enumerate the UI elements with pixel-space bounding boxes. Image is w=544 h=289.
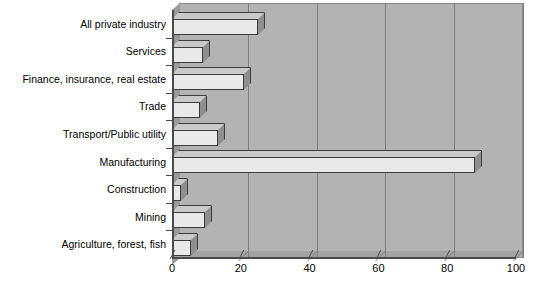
bar-front-face — [172, 157, 475, 173]
gridline-60 — [385, 3, 386, 258]
gridline-80 — [454, 3, 455, 258]
bar-front-face — [172, 19, 258, 35]
x-axis — [172, 257, 516, 259]
category-label: Mining — [135, 211, 166, 223]
bar-front-face — [172, 130, 218, 146]
x-tick-label: 60 — [358, 262, 398, 274]
category-label: All private industry — [80, 18, 166, 30]
category-label: Trade — [139, 100, 166, 112]
x-tick-label: 20 — [221, 262, 261, 274]
y-tick — [166, 230, 172, 231]
y-tick — [166, 203, 172, 204]
x-tick-label: 80 — [427, 262, 467, 274]
bar — [172, 123, 218, 139]
bar — [172, 205, 205, 221]
y-axis — [172, 10, 174, 258]
category-label: Services — [126, 45, 166, 57]
bar — [172, 95, 200, 111]
y-tick — [166, 120, 172, 121]
bar-top-face — [172, 12, 265, 19]
bar — [172, 12, 258, 28]
bar-front-face — [172, 240, 191, 256]
bar — [172, 150, 475, 166]
category-label: Construction — [107, 183, 166, 195]
y-tick — [166, 65, 172, 66]
y-tick — [166, 38, 172, 39]
bar-front-face — [172, 47, 203, 63]
category-label: Transport/Public utility — [63, 128, 166, 140]
bar-chart: All private industryServicesFinance, ins… — [0, 0, 544, 289]
x-tick-label: 100 — [496, 262, 536, 274]
bar-top-face — [172, 123, 225, 130]
bar — [172, 40, 203, 56]
category-label: Agriculture, forest, fish — [62, 238, 166, 250]
category-label: Finance, insurance, real estate — [22, 73, 166, 85]
gridline-20 — [248, 3, 249, 258]
bar-front-face — [172, 74, 244, 90]
gridline-40 — [317, 3, 318, 258]
bar-top-face — [172, 67, 251, 74]
bar-front-face — [172, 102, 200, 118]
plot-back-wall — [179, 3, 523, 258]
y-tick — [166, 148, 172, 149]
y-tick — [166, 93, 172, 94]
bar-top-face — [172, 150, 482, 157]
x-tick-label: 40 — [290, 262, 330, 274]
gridline-100 — [523, 3, 524, 258]
bar — [172, 233, 191, 249]
bar-front-face — [172, 212, 205, 228]
x-tick-label: 0 — [152, 262, 192, 274]
bar — [172, 67, 244, 83]
category-label: Manufacturing — [99, 156, 166, 168]
y-tick — [166, 175, 172, 176]
